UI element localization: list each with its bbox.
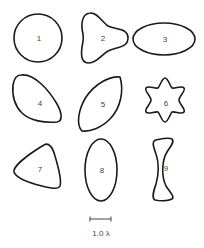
shape-label: 8 xyxy=(100,166,105,175)
shape-label: 5 xyxy=(101,100,106,109)
scale-bar-label: 1.0 λ xyxy=(92,229,109,238)
shape-label: 7 xyxy=(38,165,43,174)
shapes-figure: 1 2 3 4 5 6 7 xyxy=(0,0,204,248)
shape-label: 6 xyxy=(164,99,169,108)
shape-6-star: 6 xyxy=(146,78,185,122)
shape-label: 3 xyxy=(163,35,168,44)
shape-9-hourglass: 9 xyxy=(153,138,173,201)
shape-label: 2 xyxy=(101,34,106,43)
shape-8-ellipse: 8 xyxy=(85,139,117,201)
shape-4-teardrop: 4 xyxy=(13,75,61,122)
shape-5-leaf: 5 xyxy=(79,77,122,131)
shape-label: 4 xyxy=(38,99,43,108)
shape-label: 1 xyxy=(37,34,42,43)
shape-2-trefoil: 2 xyxy=(82,13,128,63)
shape-label: 9 xyxy=(164,164,169,173)
scale-bar: 1.0 λ xyxy=(90,217,111,239)
shape-7-triangle: 7 xyxy=(14,144,61,188)
shape-1-circle: 1 xyxy=(14,14,62,62)
shape-3-ellipse: 3 xyxy=(133,23,195,55)
diagram-canvas: 1 2 3 4 5 6 7 xyxy=(0,0,204,248)
